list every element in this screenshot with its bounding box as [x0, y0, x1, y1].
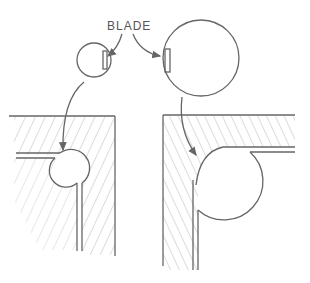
blade-diagram: BLADE: [0, 0, 310, 283]
large-blade-rect: [165, 49, 170, 72]
large-blade-circle: [163, 20, 239, 96]
blade-arrow-small: [108, 34, 122, 56]
small-blade-circle: [77, 43, 111, 77]
blade-label: BLADE: [107, 19, 151, 33]
blade-arrow-large: [133, 34, 160, 56]
small-blade-rect: [103, 51, 107, 69]
left-section: [9, 82, 115, 256]
right-section: [163, 97, 295, 270]
